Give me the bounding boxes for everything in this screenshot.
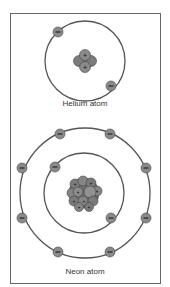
atom-diagram: + + +++ +++ ++ [0, 0, 170, 287]
svg-text:+: + [83, 64, 87, 71]
svg-text:+: + [77, 189, 80, 195]
neon-atom: +++ +++ ++ [17, 128, 151, 258]
svg-text:+: + [74, 181, 77, 187]
electron-icon [106, 81, 116, 91]
electron-icon [50, 162, 60, 172]
helium-atom: + + [45, 21, 125, 101]
electron-icon [17, 213, 27, 223]
electron-icon [105, 129, 115, 139]
electron-icon [53, 27, 63, 37]
neon-nucleus: +++ +++ ++ [67, 176, 102, 212]
electron-icon [53, 247, 63, 257]
svg-text:+: + [73, 198, 76, 204]
svg-text:+: + [78, 204, 81, 210]
svg-text:+: + [83, 198, 86, 204]
electron-icon [17, 163, 27, 173]
svg-text:+: + [88, 204, 91, 210]
electron-icon [141, 163, 151, 173]
electron-icon [105, 247, 115, 257]
helium-label: Helium atom [0, 99, 170, 108]
electron-icon [141, 213, 151, 223]
svg-text:+: + [90, 180, 93, 186]
electron-icon [55, 129, 65, 139]
svg-text:+: + [83, 52, 87, 59]
helium-nucleus: + + [74, 50, 97, 73]
neon-label: Neon atom [0, 267, 170, 276]
svg-text:+: + [96, 188, 99, 194]
electron-icon [106, 213, 116, 223]
